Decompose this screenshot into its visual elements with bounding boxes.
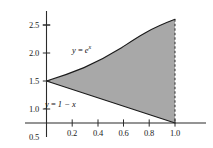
x-tick-label-0.4: 0.4 (86, 128, 110, 138)
y-tick-label-2.0: 2.0 (17, 48, 39, 58)
label-lower-y: y (45, 99, 49, 109)
label-lower-rhs: 1 − x (58, 99, 76, 109)
y-tick-label-1.0: 1.0 (17, 104, 39, 114)
x-tick-label-0.6: 0.6 (112, 128, 136, 138)
y-tick-label-0.5: 0.5 (17, 132, 39, 142)
label-upper-exponent: x (89, 44, 92, 50)
y-tick-label-2.5: 2.5 (17, 20, 39, 30)
label-upper-y: y (72, 45, 76, 55)
label-upper-equals: = (78, 45, 83, 55)
figure-container: 2.5 2.0 1.5 1.0 0.5 0.2 0.4 0.6 0.8 1.0 … (0, 0, 213, 148)
label-lower-equals: = (51, 99, 56, 109)
y-tick-label-1.5: 1.5 (17, 76, 39, 86)
x-tick-label-1.0: 1.0 (163, 128, 187, 138)
x-tick-label-0.8: 0.8 (137, 128, 161, 138)
label-upper-curve: y = ex (72, 44, 91, 55)
x-tick-label-0.2: 0.2 (60, 128, 84, 138)
label-lower-curve: y = 1 − x (45, 99, 76, 109)
